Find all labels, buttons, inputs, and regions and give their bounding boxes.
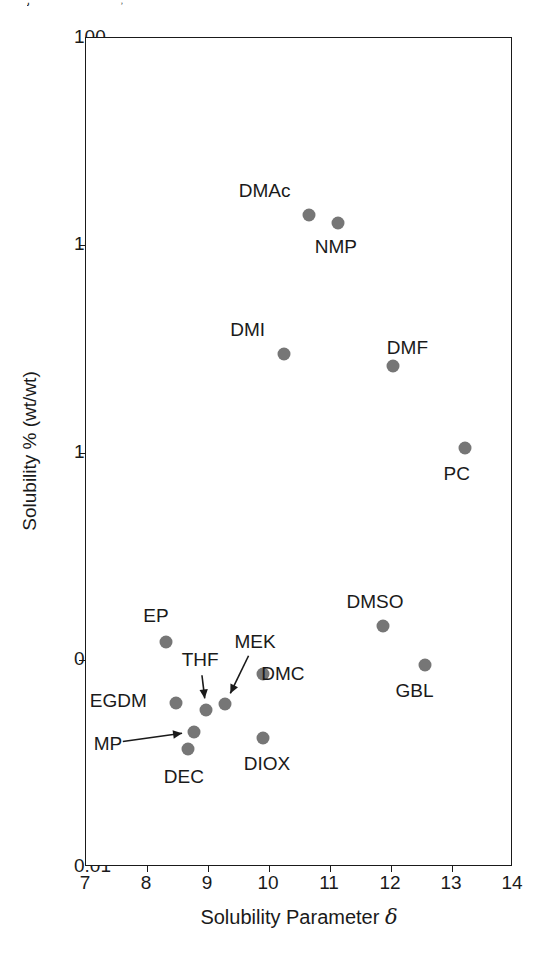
x-axis-tick-label: 8 <box>141 872 152 894</box>
y-axis-tick <box>79 660 86 661</box>
point-label-egdm: EGDM <box>90 690 147 712</box>
x-axis-tick-label: 10 <box>257 872 278 894</box>
point-label-dmc: DMC <box>261 663 304 685</box>
data-point-dec <box>181 743 194 756</box>
x-axis-tick-label: 11 <box>319 872 339 894</box>
data-point-mp <box>187 725 200 738</box>
x-axis-tick-label: 12 <box>379 872 400 894</box>
data-point-dmf <box>387 360 400 373</box>
leader-arrows <box>86 38 513 867</box>
point-label-dmac: DMAc <box>239 180 291 202</box>
x-axis-tick-label: 13 <box>440 872 461 894</box>
point-label-dec: DEC <box>164 766 204 788</box>
x-axis-title: Solubility Parameter δ <box>200 905 397 929</box>
point-label-mp: MP <box>94 733 123 755</box>
point-label-nmp: NMP <box>315 236 357 258</box>
point-label-pc: PC <box>444 463 470 485</box>
x-axis-tick-label: 14 <box>501 872 522 894</box>
point-label-thf: THF <box>182 649 219 671</box>
data-point-ep <box>159 635 172 648</box>
data-point-pc <box>458 442 471 455</box>
x-axis-title-text: Solubility Parameter <box>200 906 385 928</box>
data-point-dmso <box>377 620 390 633</box>
point-label-ep: EP <box>143 605 168 627</box>
point-label-dmi: DMI <box>230 319 265 341</box>
bleed-text-left: j <box>27 0 30 6</box>
bleed-text-right: , <box>120 0 124 6</box>
data-point-nmp <box>331 217 344 230</box>
data-point-egdm <box>170 696 183 709</box>
page-bleed-fragment: j , <box>0 0 545 16</box>
data-point-dmac <box>302 208 315 221</box>
data-point-thf <box>200 704 213 717</box>
data-point-dmi <box>277 347 290 360</box>
delta-symbol: δ <box>385 905 398 929</box>
point-label-mek: MEK <box>234 631 275 653</box>
data-point-mek <box>219 698 232 711</box>
y-axis-tick <box>79 245 86 246</box>
point-label-gbl: GBL <box>396 680 434 702</box>
data-point-diox <box>256 731 269 744</box>
plot-area: DMAcNMPDMIDMFPCDMSOGBLEPEGDMTHFMEKDMCMPD… <box>85 37 512 866</box>
y-axis-tick <box>79 453 86 454</box>
data-point-gbl <box>418 659 431 672</box>
point-label-dmf: DMF <box>387 337 428 359</box>
y-axis-title: Solubility % (wt/wt) <box>19 371 41 530</box>
x-axis-tick-label: 9 <box>202 872 213 894</box>
point-label-diox: DIOX <box>244 753 290 775</box>
point-label-dmso: DMSO <box>347 591 404 613</box>
x-axis-tick-label: 7 <box>80 872 91 894</box>
